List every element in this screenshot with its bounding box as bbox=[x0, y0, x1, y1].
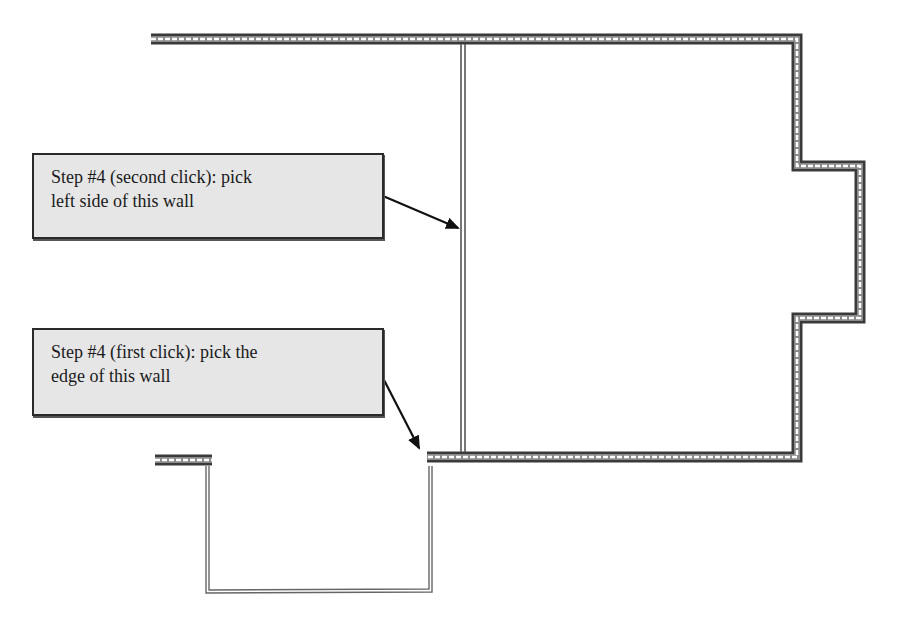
floor-plan-drawing bbox=[0, 0, 899, 619]
lower-room-outline bbox=[206, 466, 432, 593]
callout-second-click: Step #4 (second click): pick left side o… bbox=[32, 153, 384, 239]
arrow-first-click bbox=[383, 378, 419, 448]
arrow-second-click bbox=[383, 196, 458, 228]
callout-second-click-line2: left side of this wall bbox=[51, 189, 368, 213]
interior-partition-wall bbox=[461, 44, 465, 452]
callout-second-click-line1: Step #4 (second click): pick bbox=[51, 165, 368, 189]
callout-first-click-line1: Step #4 (first click): pick the bbox=[51, 340, 368, 364]
callout-first-click-line2: edge of this wall bbox=[51, 364, 368, 388]
callout-first-click: Step #4 (first click): pick the edge of … bbox=[32, 328, 384, 416]
